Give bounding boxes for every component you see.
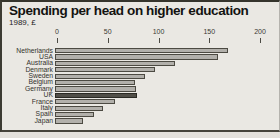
bar — [55, 112, 94, 117]
x-tick-label: 150 — [203, 28, 215, 35]
x-tick-label: 100 — [153, 28, 165, 35]
x-tick-mark — [159, 38, 160, 43]
bar — [55, 67, 155, 72]
bar — [55, 106, 103, 111]
bar-chart: 050100150200 NetherlandsUSAAustraliaDenm… — [2, 2, 279, 130]
bar — [55, 61, 175, 66]
bar — [55, 118, 83, 123]
bar-rows: NetherlandsUSAAustraliaDenmarkSwedenBelg… — [2, 48, 279, 125]
bar-label: Japan — [2, 118, 55, 124]
bar — [55, 54, 218, 59]
chart-frame: Spending per head on higher education 19… — [0, 0, 280, 132]
bar-row: Japan — [2, 118, 279, 124]
bar — [55, 80, 135, 85]
x-tick-mark — [209, 38, 210, 43]
x-tick-label: 0 — [55, 28, 59, 35]
x-tick-mark — [57, 38, 58, 43]
x-tick-label: 50 — [104, 28, 112, 35]
bar — [55, 99, 115, 104]
bar-highlight — [55, 93, 137, 98]
bar — [55, 86, 136, 91]
x-tick-mark — [260, 38, 261, 43]
bar — [55, 48, 228, 53]
bar — [55, 74, 145, 79]
x-tick-mark — [108, 38, 109, 43]
x-tick-label: 200 — [254, 28, 266, 35]
